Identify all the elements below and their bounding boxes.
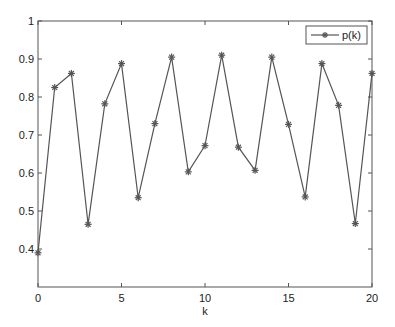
asterisk-marker-icon — [35, 249, 42, 256]
asterisk-marker-icon — [168, 54, 175, 61]
asterisk-marker-icon — [235, 144, 242, 151]
asterisk-marker-icon — [185, 168, 192, 175]
asterisk-marker-icon — [85, 221, 92, 228]
asterisk-marker-icon — [369, 70, 376, 77]
asterisk-marker-icon — [151, 120, 158, 127]
asterisk-marker-icon — [352, 220, 359, 227]
y-tick-label: 1 — [28, 15, 34, 27]
x-axis-label: k — [202, 305, 208, 317]
y-tick-label: 0.8 — [19, 91, 34, 103]
x-tick-label: 0 — [35, 292, 41, 304]
asterisk-marker-icon — [101, 100, 108, 107]
asterisk-marker-icon — [318, 60, 325, 67]
x-tick-label: 15 — [282, 292, 294, 304]
asterisk-marker-icon — [302, 193, 309, 200]
legend-label: p(k) — [342, 29, 361, 41]
asterisk-marker-icon — [335, 102, 342, 109]
y-tick-label: 0.5 — [19, 205, 34, 217]
asterisk-marker-icon — [68, 70, 75, 77]
line-chart: 051015200.40.50.60.70.80.91kp(k) — [0, 0, 395, 327]
asterisk-marker-icon — [285, 121, 292, 128]
y-tick-label: 0.6 — [19, 167, 34, 179]
asterisk-marker-icon — [218, 52, 225, 59]
asterisk-marker-icon — [252, 167, 259, 174]
asterisk-marker-icon — [135, 194, 142, 201]
x-tick-label: 10 — [199, 292, 211, 304]
y-tick-label: 0.9 — [19, 53, 34, 65]
asterisk-marker-icon — [268, 54, 275, 61]
y-tick-label: 0.4 — [19, 243, 34, 255]
x-tick-label: 20 — [366, 292, 378, 304]
y-tick-label: 0.7 — [19, 129, 34, 141]
asterisk-marker-icon — [118, 60, 125, 67]
asterisk-marker-icon — [202, 142, 209, 149]
asterisk-marker-icon — [51, 84, 58, 91]
legend-asterisk-icon — [322, 32, 328, 38]
x-tick-label: 5 — [118, 292, 124, 304]
